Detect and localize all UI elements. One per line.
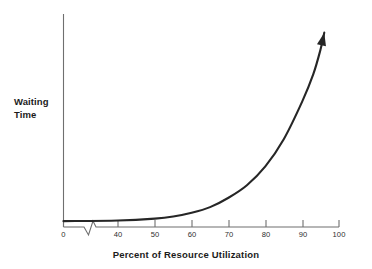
x-tick-label-50: 50 bbox=[142, 230, 168, 239]
x-tick-label-90: 90 bbox=[290, 230, 316, 239]
x-tick-label-80: 80 bbox=[253, 230, 279, 239]
y-axis-title-line-1: Waiting bbox=[14, 96, 66, 109]
x-tick-label-40: 40 bbox=[105, 230, 131, 239]
y-axis-title-line-2: Time bbox=[14, 109, 66, 122]
x-axis-title: Percent of Resource Utilization bbox=[0, 249, 372, 260]
x-tick-label-0: 0 bbox=[51, 230, 77, 239]
x-tick-label-70: 70 bbox=[216, 230, 242, 239]
x-tick-label-100: 100 bbox=[326, 230, 352, 239]
x-tick-label-60: 60 bbox=[179, 230, 205, 239]
waiting-time-curve bbox=[64, 33, 325, 222]
chart-plot-area bbox=[0, 0, 372, 269]
chart-figure: Waiting Time Percent of Resource Utiliza… bbox=[0, 0, 372, 269]
y-axis-title: Waiting Time bbox=[14, 96, 66, 121]
axis-break-zigzag-icon bbox=[80, 221, 97, 235]
